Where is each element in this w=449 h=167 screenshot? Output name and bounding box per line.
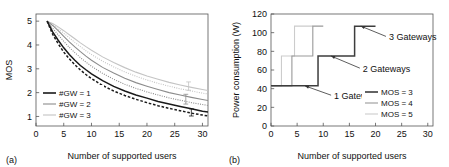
y-tick-label: 120: [252, 9, 267, 19]
y-tick-label: 1: [27, 112, 32, 122]
x-tick-label: 5: [61, 129, 66, 139]
chart-b-svg: 051015202530020406080100120 1 Gateway2 G…: [225, 0, 449, 167]
x-axis-title-b: Number of supported users: [297, 151, 407, 161]
annotation-label: 2 Gateways: [363, 64, 411, 74]
y-axis-title-a: MOS: [4, 60, 14, 81]
x-tick-label: 20: [142, 129, 152, 139]
x-tick-label: 0: [268, 129, 273, 139]
figure-root: 05101520253012345 MOS Number of supporte…: [0, 0, 449, 167]
y-tick-label: 100: [252, 28, 267, 38]
annotation-label: 3 Gateways: [389, 32, 437, 42]
x-tick-label: 5: [295, 129, 300, 139]
x-tick-label: 25: [170, 129, 180, 139]
x-tick-label: 0: [33, 129, 38, 139]
y-tick-label: 4: [27, 40, 32, 50]
legend-b: MOS = 3MOS = 4MOS = 5: [362, 84, 428, 121]
panel-a-tag: (a): [6, 155, 17, 165]
y-tick-label: 2: [27, 88, 32, 98]
legend-label: MOS = 4: [381, 99, 413, 108]
legend-a: #GW = 1#GW = 2#GW = 3: [40, 85, 104, 122]
legend-label: MOS = 3: [381, 88, 413, 97]
x-tick-label: 20: [371, 129, 381, 139]
y-tick-label: 0: [262, 121, 267, 131]
y-axis-title-b: Power consumption (W): [231, 22, 241, 118]
y-tick-label: 5: [27, 16, 32, 26]
y-tick-label: 3: [27, 64, 32, 74]
legend-label: #GW = 1: [59, 89, 91, 98]
y-tick-label: 20: [257, 103, 267, 113]
y-tick-label: 80: [257, 47, 267, 57]
panel-b: 051015202530020406080100120 1 Gateway2 G…: [225, 0, 449, 167]
chart-a-svg: 05101520253012345 MOS Number of supporte…: [0, 0, 224, 167]
x-tick-label: 10: [318, 129, 328, 139]
legend-label: MOS = 5: [381, 110, 413, 119]
x-axis-title-a: Number of supported users: [67, 151, 177, 161]
x-tick-label: 30: [423, 129, 433, 139]
x-tick-label: 10: [86, 129, 96, 139]
x-tick-label: 25: [397, 129, 407, 139]
x-tick-label: 15: [114, 129, 124, 139]
x-tick-label: 30: [197, 129, 207, 139]
x-tick-label: 15: [344, 129, 354, 139]
panel-b-tag: (b): [229, 155, 240, 165]
y-tick-label: 60: [257, 65, 267, 75]
panel-a: 05101520253012345 MOS Number of supporte…: [0, 0, 224, 167]
y-tick-label: 40: [257, 84, 267, 94]
legend-label: #GW = 2: [59, 100, 91, 109]
legend-label: #GW = 3: [59, 111, 91, 120]
